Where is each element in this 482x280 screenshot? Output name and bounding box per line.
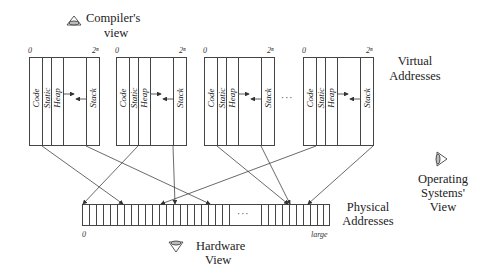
compiler-view-label-1: Compiler's: [86, 12, 140, 25]
segment-code: Code: [305, 78, 315, 118]
os-view-label-2: Systems': [408, 187, 478, 200]
segment-code: Code: [118, 78, 128, 118]
virtual-start-tick: 0: [203, 46, 207, 55]
segment-static: Static: [42, 78, 52, 118]
hardware-view-label-1: Hardware: [196, 240, 245, 253]
virtual-ellipsis: ···: [281, 92, 294, 103]
segment-stack: Stack: [175, 78, 185, 118]
segment-code: Code: [31, 78, 41, 118]
physical-end-tick: large: [311, 230, 328, 239]
physical-start-tick: 0: [82, 230, 86, 239]
hardware-eye-icon: [169, 241, 183, 252]
virtual-end-tick: 2ⁿ: [366, 46, 373, 55]
compiler-eye-icon: [67, 16, 81, 25]
segment-static: Static: [129, 78, 139, 118]
segment-heap: Heap: [326, 78, 336, 118]
segment-heap: Heap: [52, 78, 62, 118]
virtual-end-tick: 2ⁿ: [179, 46, 186, 55]
physical-addresses-label-2: Addresses: [328, 215, 408, 228]
diagram-canvas: [0, 0, 482, 280]
virtual-addresses-label-2: Addresses: [378, 70, 452, 83]
virtual-end-tick: 2ⁿ: [267, 46, 274, 55]
virtual-start-tick: 0: [28, 46, 32, 55]
segment-static: Static: [217, 78, 227, 118]
virtual-end-tick: 2ⁿ: [92, 46, 99, 55]
os-eye-icon: [436, 152, 447, 166]
segment-heap: Heap: [139, 78, 149, 118]
physical-addresses-label-1: Physical: [330, 201, 406, 214]
mapping-arrows: [42, 146, 373, 204]
segment-static: Static: [316, 78, 326, 118]
compiler-view-label-2: view: [104, 27, 128, 40]
virtual-start-tick: 0: [302, 46, 306, 55]
segment-code: Code: [206, 78, 216, 118]
os-view-label-1: Operating: [408, 173, 478, 186]
segment-stack: Stack: [88, 78, 98, 118]
virtual-start-tick: 0: [115, 46, 119, 55]
physical-memory: [83, 204, 330, 226]
hardware-view-label-2: View: [205, 254, 231, 267]
segment-stack: Stack: [362, 78, 372, 118]
virtual-addresses-label-1: Virtual: [385, 55, 445, 68]
physical-ellipsis: ···: [237, 208, 250, 219]
segment-stack: Stack: [263, 78, 273, 118]
segment-heap: Heap: [227, 78, 237, 118]
os-view-label-3: View: [408, 201, 478, 214]
